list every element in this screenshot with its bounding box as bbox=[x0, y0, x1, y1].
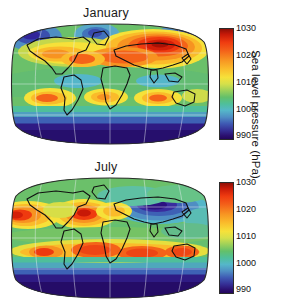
map-january bbox=[8, 22, 212, 146]
colorbar-tick-990: 990 bbox=[236, 285, 251, 294]
panel-title-july: July bbox=[0, 160, 212, 174]
contour-field-july bbox=[8, 176, 212, 300]
map-svg-july bbox=[8, 176, 212, 300]
colorbar-tick-1030: 1030 bbox=[236, 24, 256, 33]
contour-field-january bbox=[8, 22, 212, 146]
panel-title-january: January bbox=[0, 6, 212, 20]
map-july bbox=[8, 176, 212, 300]
colorbar-tick-1000: 1000 bbox=[236, 259, 256, 268]
panel-january: January bbox=[0, 0, 282, 154]
figure-root: January bbox=[0, 0, 282, 308]
colorbar-gradient-july bbox=[219, 182, 234, 294]
panel-july: July bbox=[0, 154, 282, 308]
map-svg-january bbox=[8, 22, 212, 146]
colorbar-axis-label: Sea level pressure (hPa) bbox=[246, 50, 262, 260]
colorbar-gradient-january bbox=[219, 28, 234, 140]
